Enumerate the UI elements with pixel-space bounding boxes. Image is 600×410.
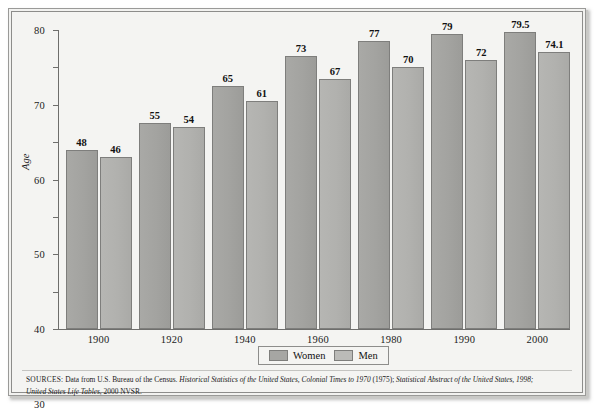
bar-value-label: 46 bbox=[110, 144, 121, 155]
y-axis-tick-mark: 50 bbox=[53, 142, 58, 143]
sources-line1-italic-a: Historical Statistics of the United Stat… bbox=[179, 375, 370, 384]
bar-group: 6561 bbox=[212, 30, 278, 329]
y-axis-tick-mark: 70 bbox=[53, 67, 58, 68]
x-axis-tick-label-1940: 1940 bbox=[234, 334, 256, 345]
x-axis-line bbox=[58, 329, 570, 330]
bar-women-1960: 73 bbox=[285, 56, 317, 329]
bar-men-1990: 72 bbox=[465, 60, 497, 329]
sources-line1-plain-a: Data from U.S. Bureau of the Census. bbox=[63, 375, 179, 384]
bar-men-1960: 67 bbox=[319, 79, 351, 329]
y-axis-tick-label: 40 bbox=[34, 324, 45, 335]
bar-women-1940: 65 bbox=[212, 86, 244, 329]
legend-label-men: Men bbox=[358, 350, 377, 361]
bar-women-1980: 77 bbox=[358, 41, 390, 329]
bar-men-1980: 70 bbox=[392, 67, 424, 329]
x-axis-tick-label-1900: 1900 bbox=[88, 334, 110, 345]
y-axis-tick-label: 80 bbox=[34, 25, 45, 36]
sources-line1-italic-b: Statistical Abstract of the United State… bbox=[396, 375, 533, 384]
bar-women-2000: 79.5 bbox=[504, 32, 536, 329]
sources-line2-italic: United States Life Tables bbox=[26, 387, 100, 396]
bar-value-label: 70 bbox=[403, 54, 414, 65]
bar-value-label: 54 bbox=[183, 114, 194, 125]
legend-swatch-men-icon bbox=[334, 350, 353, 361]
bar-value-label: 79 bbox=[442, 21, 453, 32]
y-axis-tick-mark: 60 bbox=[53, 105, 58, 106]
chart-legend: Women Men bbox=[258, 346, 389, 365]
y-axis-tick-mark: 20 bbox=[53, 254, 58, 255]
sources-label: SOURCES: bbox=[26, 375, 63, 384]
bar-women-1920: 55 bbox=[139, 123, 171, 329]
bar-value-label: 48 bbox=[76, 137, 87, 148]
y-axis-tick-label: 60 bbox=[34, 174, 45, 185]
y-axis-tick-mark: 0 bbox=[53, 329, 58, 330]
x-axis-tick-label-1990: 1990 bbox=[453, 334, 475, 345]
bar-group: 7367 bbox=[285, 30, 351, 329]
x-axis-tick-label-1980: 1980 bbox=[380, 334, 402, 345]
bar-value-label: 79.5 bbox=[511, 19, 529, 30]
y-axis-tick-mark: 30 bbox=[53, 217, 58, 218]
legend-label-women: Women bbox=[293, 350, 325, 361]
sources-divider bbox=[22, 370, 572, 371]
bar-men-1900: 46 bbox=[100, 157, 132, 329]
y-axis-tick-mark: 10 bbox=[53, 292, 58, 293]
bar-group: 7972 bbox=[431, 30, 497, 329]
sources-line2-plain: , 2000 NVSR. bbox=[100, 387, 142, 396]
legend-item-women: Women bbox=[269, 350, 325, 361]
sources-note: SOURCES: Data from U.S. Bureau of the Ce… bbox=[26, 374, 570, 397]
y-axis-line bbox=[58, 30, 59, 330]
bar-women-1900: 48 bbox=[66, 150, 98, 329]
x-axis-tick-label-1920: 1920 bbox=[161, 334, 183, 345]
y-axis-tick-label: 70 bbox=[34, 99, 45, 110]
bar-men-2000: 74.1 bbox=[538, 52, 570, 329]
y-axis-tick-mark: 40 bbox=[53, 180, 58, 181]
bar-value-label: 61 bbox=[257, 88, 268, 99]
legend-swatch-women-icon bbox=[269, 350, 288, 361]
bar-group: 5554 bbox=[139, 30, 205, 329]
bar-group: 7770 bbox=[358, 30, 424, 329]
figure-frame: 01020304050607080 4846555465617367777079… bbox=[8, 8, 586, 396]
y-axis-tick-mark: 80 bbox=[53, 30, 58, 31]
y-axis-tick-label: 30 bbox=[34, 398, 45, 409]
sources-line1-plain-b: (1975); bbox=[371, 375, 396, 384]
bar-women-1990: 79 bbox=[431, 34, 463, 329]
bar-value-label: 77 bbox=[369, 28, 380, 39]
chart-plot-area: 01020304050607080 4846555465617367777079… bbox=[58, 30, 570, 330]
bar-value-label: 55 bbox=[149, 110, 160, 121]
x-axis-tick-label-2000: 2000 bbox=[527, 334, 549, 345]
bar-group: 4846 bbox=[66, 30, 132, 329]
y-axis-title: Age bbox=[20, 154, 31, 170]
bar-men-1940: 61 bbox=[246, 101, 278, 329]
legend-item-men: Men bbox=[334, 350, 377, 361]
bar-value-label: 74.1 bbox=[545, 39, 563, 50]
bar-value-label: 65 bbox=[223, 73, 234, 84]
bar-group: 79.574.1 bbox=[504, 30, 570, 329]
bar-value-label: 73 bbox=[296, 43, 307, 54]
bar-value-label: 67 bbox=[330, 66, 341, 77]
x-axis-tick-label-1960: 1960 bbox=[307, 334, 329, 345]
figure-inner-border: 01020304050607080 4846555465617367777079… bbox=[11, 11, 583, 393]
bar-value-label: 72 bbox=[476, 47, 487, 58]
bar-men-1920: 54 bbox=[173, 127, 205, 329]
y-axis-tick-label: 50 bbox=[34, 249, 45, 260]
